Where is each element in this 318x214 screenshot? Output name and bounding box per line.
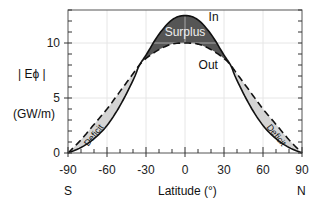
y-tick-label: 5	[53, 91, 60, 105]
x-sub-label-south: S	[64, 184, 72, 198]
x-axis-label: Latitude (°)	[158, 184, 217, 198]
x-tick-label: 0	[182, 163, 189, 177]
x-sub-label-north: N	[297, 184, 306, 198]
deficit-region-south	[68, 65, 140, 153]
x-tick-label: -90	[59, 163, 77, 177]
x-tick-label: -60	[98, 163, 116, 177]
y-tick-label: 0	[53, 146, 60, 160]
x-tick-label: 90	[295, 163, 309, 177]
x-tick-label: -30	[137, 163, 155, 177]
y-axis-label-line1: | Eϕ |	[18, 67, 46, 81]
annotation-in: In	[209, 10, 219, 24]
y-axis-label-line2: (GW/m)	[13, 107, 55, 121]
annotation-surplus: Surplus	[165, 25, 206, 39]
y-tick-label: 10	[47, 36, 61, 50]
x-tick-label: 30	[217, 163, 231, 177]
annotation-out: Out	[199, 58, 219, 72]
x-tick-label: 60	[256, 163, 270, 177]
